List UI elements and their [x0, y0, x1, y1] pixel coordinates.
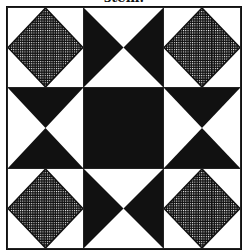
cell-top-left-diamond [7, 7, 84, 88]
hourglass-icon [164, 88, 240, 168]
quilt-block [6, 6, 242, 250]
hourglass-icon [84, 8, 163, 87]
cell-bottom-right-diamond [163, 168, 241, 249]
cell-top-center-hourglass [83, 7, 164, 88]
checkered-diamond-icon [8, 169, 83, 248]
cell-top-right-diamond [163, 7, 241, 88]
cell-bottom-left-diamond [7, 168, 84, 249]
cell-middle-right-hourglass [163, 87, 241, 169]
checkered-diamond-icon [8, 8, 83, 87]
checkered-diamond-icon [164, 169, 240, 248]
hourglass-icon [84, 169, 163, 248]
cell-middle-left-hourglass [7, 87, 84, 169]
checkered-diamond-icon [164, 8, 240, 87]
hourglass-icon [8, 88, 83, 168]
caption-text: stem. [0, 0, 248, 5]
cell-center-solid [83, 87, 164, 169]
cell-bottom-center-hourglass [83, 168, 164, 249]
